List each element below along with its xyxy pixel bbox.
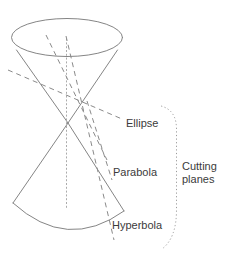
parabola-label: Parabola [113,166,157,179]
cutting-planes-label-line2: planes [182,173,217,186]
hyperbola-label: Hyperbola [112,219,162,232]
upper-cone-right-edge [68,50,118,123]
cutting-planes-label-line1: Cutting [182,160,217,173]
lower-cone-left-edge [13,123,68,203]
ellipse-plane-line [8,70,122,119]
cutting-planes-brace [161,106,177,249]
lower-cone-bottom-arc [13,203,124,230]
conic-sections-diagram: Ellipse Parabola Hyperbola Cutting plane… [0,0,228,261]
double-cone [12,19,125,230]
cutting-planes-label: Cutting planes [182,160,217,186]
ellipse-label: Ellipse [126,117,158,130]
upper-cone-left-edge [17,50,69,123]
cutting-plane-lines [8,35,122,240]
